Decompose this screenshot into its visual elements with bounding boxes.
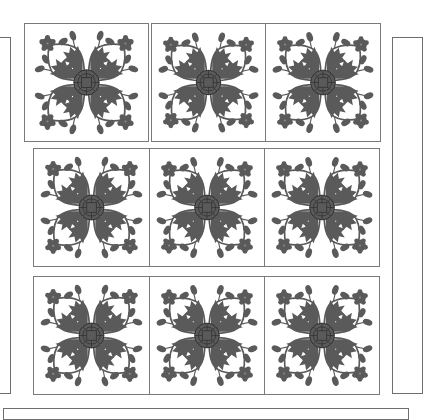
- flower-vine-applique-icon: [266, 24, 380, 141]
- applique-block: [33, 148, 150, 267]
- applique-block: [150, 276, 265, 395]
- block-row-2: [33, 148, 380, 267]
- flower-vine-applique-icon: [150, 277, 264, 394]
- applique-block: [265, 276, 380, 395]
- flower-vine-applique-icon: [34, 277, 149, 394]
- flower-vine-applique-icon: [265, 277, 379, 394]
- right-border-strip: [392, 37, 423, 394]
- flower-vine-applique-icon: [25, 24, 148, 141]
- applique-block: [265, 148, 380, 267]
- flower-vine-applique-icon: [152, 24, 265, 141]
- left-border-strip: [0, 37, 11, 394]
- flower-vine-applique-icon: [265, 149, 379, 266]
- applique-block: [33, 276, 150, 395]
- flower-vine-applique-icon: [34, 149, 149, 266]
- bottom-border-strip: [3, 408, 409, 420]
- block-row-1: [24, 23, 381, 142]
- applique-block: [266, 23, 381, 142]
- applique-block: [151, 23, 266, 142]
- flower-vine-applique-icon: [150, 149, 264, 266]
- block-row-3: [33, 276, 380, 395]
- applique-block: [24, 23, 149, 142]
- applique-block: [150, 148, 265, 267]
